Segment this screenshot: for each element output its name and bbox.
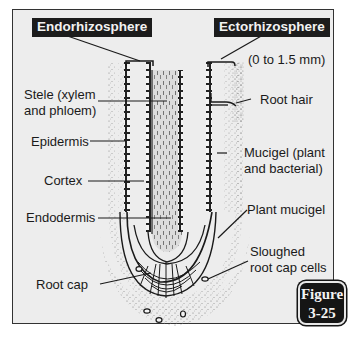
sloughed-label-line2: root cap cells [250, 260, 327, 275]
figure-badge: Figure 3-25 [298, 281, 346, 325]
mucigel-label-line1: Mucigel (plant [244, 145, 325, 160]
figure-badge-line1: Figure [300, 285, 344, 304]
figure-badge-line2: 3-25 [300, 304, 344, 323]
endorhizosphere-header: Endorhizosphere [32, 18, 152, 37]
epidermis-label: Epidermis [31, 134, 89, 149]
stele-label-line1: Stele (xylem [24, 87, 96, 102]
stele [152, 70, 183, 252]
mucigel-label-line2: and bacterial) [244, 161, 323, 176]
root-hair-label: Root hair [260, 92, 313, 107]
stele-label-line2: and phloem) [24, 103, 96, 118]
endodermis-label: Endodermis [26, 210, 95, 225]
zone-brackets [126, 61, 235, 67]
range-label: (0 to 1.5 mm) [248, 52, 325, 67]
plant-mucigel-label: Plant mucigel [247, 202, 325, 217]
root-cap-label: Root cap [36, 277, 88, 292]
cortex-label: Cortex [44, 173, 82, 188]
ectorhizosphere-header: Ectorhizosphere [214, 18, 330, 37]
sloughed-label-line1: Sloughed [250, 244, 305, 259]
